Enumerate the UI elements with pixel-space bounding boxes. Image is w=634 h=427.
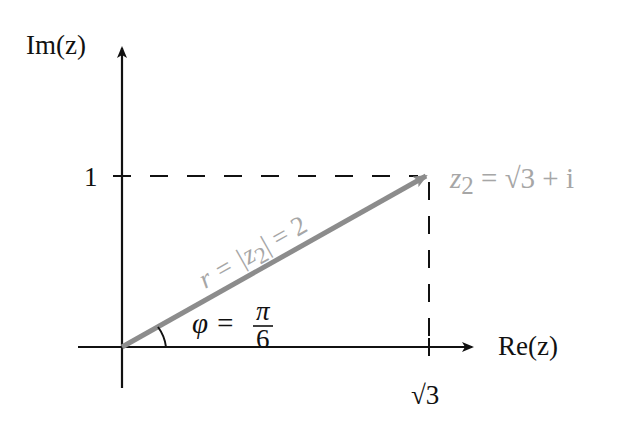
angle-label: φ = (192, 307, 235, 339)
x-axis-label: Re(z) (498, 331, 558, 361)
x-tick-label: √3 (411, 380, 439, 410)
y-tick-label: 1 (84, 162, 98, 192)
vector-z2 (122, 176, 426, 347)
z2-label: z2 = √3 + i (449, 162, 574, 199)
angle-denominator: 6 (256, 324, 270, 354)
angle-arc (158, 327, 166, 347)
angle-numerator: π (256, 296, 271, 326)
modulus-label: r = |z2| = 2 (193, 210, 314, 299)
complex-plane-diagram: Im(z) Re(z) 1 √3 z2 = √3 + i r = |z2| = … (0, 0, 634, 427)
y-axis-label: Im(z) (26, 30, 86, 60)
